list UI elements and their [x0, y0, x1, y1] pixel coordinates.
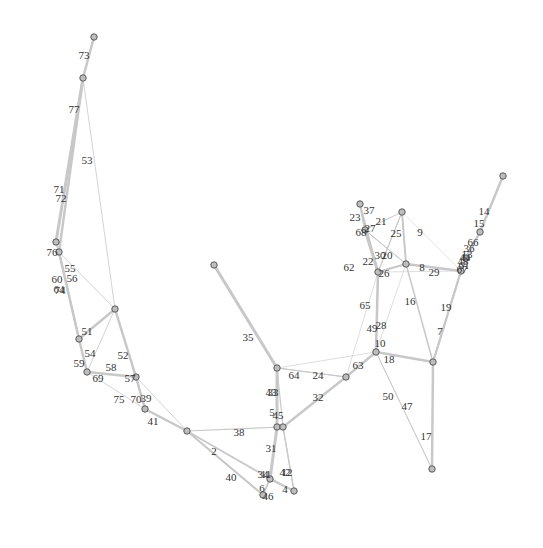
edge-label: 11 [261, 468, 272, 480]
edge-label: 67 [457, 263, 469, 275]
network-graph: 7377715372765556606474515254596958577039… [0, 0, 543, 548]
graph-edge [283, 427, 294, 491]
edge-label: 40 [226, 471, 238, 483]
graph-edge [402, 212, 461, 271]
graph-edge [187, 431, 294, 491]
edge-label: 59 [74, 357, 86, 369]
edge-label: 52 [118, 349, 129, 361]
graph-edge [214, 265, 277, 368]
edge-label: 64 [289, 369, 301, 381]
edge-label: 2 [211, 445, 217, 457]
edge-label: 12 [282, 466, 293, 478]
graph-node [403, 261, 409, 267]
edge-label: 9 [417, 226, 423, 238]
edge-labels-layer: 7377715372765556606474515254596958577039… [47, 49, 491, 502]
graph-edge [187, 431, 263, 495]
graph-edge [402, 212, 406, 264]
graph-node [211, 262, 217, 268]
edge-label: 32 [313, 391, 324, 403]
graph-node [399, 209, 405, 215]
edge-label: 58 [106, 361, 118, 373]
graph-node [274, 365, 280, 371]
edge-label: 18 [384, 353, 396, 365]
graph-edge [433, 271, 461, 362]
graph-node [357, 201, 363, 207]
edge-label: 15 [474, 217, 486, 229]
edge-label: 16 [405, 295, 417, 307]
edge-label: 75 [114, 393, 126, 405]
edge-label: 41 [148, 415, 159, 427]
edge-label: 38 [234, 426, 246, 438]
graph-node [373, 349, 379, 355]
edge-label: 69 [93, 372, 105, 384]
edge-label: 51 [82, 325, 93, 337]
edge-label: 74 [55, 284, 67, 296]
edge-label: 73 [79, 49, 91, 61]
edge-label: 39 [141, 392, 153, 404]
edge-label: 17 [421, 430, 433, 442]
graph-node [429, 466, 435, 472]
edge-label: 24 [313, 369, 325, 381]
graph-edge [277, 368, 346, 377]
edge-label: 26 [379, 267, 391, 279]
edge-label: 57 [125, 372, 137, 384]
edge-label: 63 [353, 359, 365, 371]
edge-label: 53 [82, 154, 94, 166]
graph-node [343, 374, 349, 380]
graph-node [500, 173, 506, 179]
edge-label: 21 [376, 215, 387, 227]
graph-node [291, 488, 297, 494]
graph-edge [83, 78, 115, 309]
edge-label: 25 [391, 227, 403, 239]
graph-node [84, 369, 90, 375]
edge-label: 31 [266, 442, 277, 454]
graph-node [112, 306, 118, 312]
edge-label: 50 [383, 390, 395, 402]
edge-label: 33 [268, 386, 280, 398]
graph-node [184, 428, 190, 434]
graph-node [91, 34, 97, 40]
edge-label: 54 [85, 347, 97, 359]
graph-node [274, 424, 280, 430]
edge-label: 20 [382, 249, 394, 261]
edge-label: 22 [363, 255, 374, 267]
edge-label: 8 [419, 261, 425, 273]
edge-label: 46 [263, 490, 275, 502]
graph-node [280, 424, 286, 430]
graph-node [76, 336, 82, 342]
edge-label: 10 [375, 337, 387, 349]
graph-edge [406, 264, 433, 362]
edge-label: 4 [282, 483, 288, 495]
graph-node [477, 229, 483, 235]
edge-label: 76 [47, 246, 59, 258]
edge-label: 14 [479, 205, 491, 217]
edge-label: 7 [437, 325, 443, 337]
edge-label: 37 [364, 204, 376, 216]
graph-edge [432, 362, 433, 469]
edge-label: 72 [56, 192, 67, 204]
edge-label: 29 [429, 266, 441, 278]
edge-label: 77 [69, 103, 81, 115]
edge-label: 35 [243, 331, 255, 343]
graph-node [53, 239, 59, 245]
edge-label: 65 [360, 299, 372, 311]
graph-node [430, 359, 436, 365]
edge-label: 23 [350, 211, 362, 223]
edge-label: 62 [344, 261, 355, 273]
edge-label: 56 [67, 272, 79, 284]
edge-label: 68 [356, 226, 368, 238]
edge-label: 19 [441, 301, 453, 313]
edge-label: 45 [273, 409, 285, 421]
edge-label: 47 [402, 400, 414, 412]
graph-node [142, 406, 148, 412]
graph-node [80, 75, 86, 81]
edge-label: 28 [376, 319, 388, 331]
